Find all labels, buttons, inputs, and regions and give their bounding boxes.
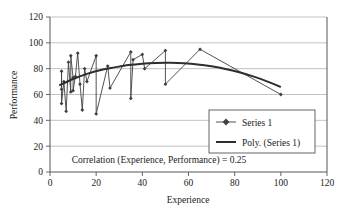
y-axis-title: Performance <box>9 71 19 120</box>
legend-label-poly: Poly. (Series 1) <box>242 138 300 149</box>
x-tick-label: 100 <box>274 178 289 188</box>
performance-vs-experience-chart: 020406080100120 020406080100120 Performa… <box>0 0 340 222</box>
y-tick-label: 20 <box>34 142 44 152</box>
legend-label-series-1: Series 1 <box>242 118 273 128</box>
y-tick-label: 40 <box>34 116 44 126</box>
y-tick-label: 100 <box>29 38 44 48</box>
chart-container: 020406080100120 020406080100120 Performa… <box>0 0 340 222</box>
x-tick-label: 80 <box>230 178 240 188</box>
y-tick-label: 60 <box>34 90 44 100</box>
x-tick-label: 120 <box>320 178 335 188</box>
x-tick-label: 20 <box>91 178 101 188</box>
x-tick-label: 60 <box>184 178 194 188</box>
x-tick-label: 0 <box>48 178 53 188</box>
chart-legend[interactable]: Series 1 Poly. (Series 1) <box>209 110 315 153</box>
y-tick-label: 0 <box>38 167 43 177</box>
y-tick-label: 80 <box>34 64 44 74</box>
y-tick-label: 120 <box>29 12 44 22</box>
correlation-annotation: Correlation (Experience, Performance) = … <box>72 155 247 166</box>
x-axis-title: Experience <box>167 195 210 205</box>
x-tick-label: 40 <box>138 178 148 188</box>
